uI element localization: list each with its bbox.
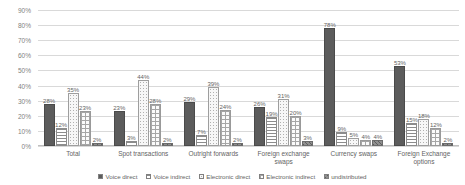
bar[interactable]: 2% [162,143,173,146]
legend-label: Electronic direct [206,173,250,180]
y-axis-tick-label: 50% [18,67,31,74]
bar[interactable]: 28% [150,104,161,146]
bar-slot: 3% [126,10,137,146]
bar-slot: 78% [324,10,335,146]
bar-slot: 15% [406,10,417,146]
bar-slot: 2% [92,10,103,146]
bar[interactable]: 44% [138,80,149,146]
bar-value-label: 18% [418,113,430,120]
bar-value-label: 2% [233,137,242,144]
legend-swatch-icon [324,174,329,179]
legend-label: Voice direct [105,173,137,180]
bar-slot: 19% [266,10,277,146]
bar-slot: 20% [290,10,301,146]
bar-value-label: 2% [93,137,102,144]
category-label: Total [38,150,108,170]
legend-label: Electronic indirect [266,173,315,180]
bar[interactable]: 3% [126,141,137,146]
category-axis-labels: TotalSpot transactionsOutright forwardsF… [38,150,459,170]
bar[interactable]: 2% [232,143,243,146]
bar-value-label: 9% [337,126,346,133]
category-label: Foreign Exchange options [389,150,459,170]
bar[interactable]: 12% [430,128,441,146]
bar-slot: 4% [360,10,371,146]
bar-value-label: 2% [444,137,453,144]
y-axis-tick-label: 60% [18,52,31,59]
bar-slot: 18% [418,10,429,146]
bar-group: 23%3%44%28%2% [108,10,178,146]
legend-item[interactable]: Electronic indirect [259,173,315,180]
bar[interactable]: 18% [418,119,429,146]
legend-label: undistributed [331,173,366,180]
y-axis: 90%80%70%60%50%40%30%20%10%0% [0,10,34,146]
bar-slot: 5% [348,10,359,146]
legend-swatch-icon [199,174,204,179]
bar[interactable]: 26% [254,107,265,146]
bar[interactable]: 5% [348,138,359,146]
bar[interactable]: 78% [324,28,335,146]
bar-group: 26%19%31%20%3% [249,10,319,146]
bar[interactable]: 7% [196,135,207,146]
bar[interactable]: 19% [266,117,277,146]
bar-value-label: 39% [207,81,219,88]
y-axis-tick-label: 20% [18,112,31,119]
bar[interactable]: 3% [302,141,313,146]
bar-slot: 4% [372,10,383,146]
bar-value-label: 2% [163,137,172,144]
bar-value-label: 3% [303,135,312,142]
bar-value-label: 4% [373,134,382,141]
legend-item[interactable]: Voice indirect [146,173,190,180]
bar[interactable]: 4% [360,140,371,146]
bar-group: 29%7%39%24%2% [178,10,248,146]
legend-item[interactable]: Electronic direct [199,173,250,180]
category-label: Spot transactions [108,150,178,170]
bar[interactable]: 23% [80,111,91,146]
bar-group: 78%9%5%4%4% [319,10,389,146]
bar-slot: 12% [430,10,441,146]
bar[interactable]: 28% [44,104,55,146]
bar-slot: 35% [68,10,79,146]
bar-value-label: 4% [361,134,370,141]
bar-value-label: 44% [137,74,149,81]
bar[interactable]: 20% [290,116,301,146]
bar[interactable]: 4% [372,140,383,146]
bar[interactable]: 9% [336,132,347,146]
bar-value-label: 3% [127,135,136,142]
bar-slot: 23% [114,10,125,146]
bar-slot: 44% [138,10,149,146]
bar-slot: 2% [162,10,173,146]
bar[interactable]: 23% [114,111,125,146]
bar-value-label: 28% [149,98,161,105]
bar-value-label: 31% [278,93,290,100]
legend-item[interactable]: undistributed [324,173,366,180]
bar[interactable]: 12% [56,128,67,146]
bar[interactable]: 31% [278,99,289,146]
bar-slot: 39% [208,10,219,146]
bar-value-label: 24% [219,104,231,111]
bar[interactable]: 29% [184,102,195,146]
bar-slot: 24% [220,10,231,146]
y-axis-tick-label: 40% [18,82,31,89]
bar[interactable]: 24% [220,110,231,146]
bar[interactable]: 2% [92,143,103,146]
bar-slot: 9% [336,10,347,146]
plot-area: 28%12%35%23%2%23%3%44%28%2%29%7%39%24%2%… [38,10,459,146]
chart-legend: Voice directVoice indirectElectronic dir… [0,170,465,182]
bar-slot: 53% [394,10,405,146]
bar[interactable]: 39% [208,87,219,146]
bar[interactable]: 2% [442,143,453,146]
legend-swatch-icon [259,174,264,179]
category-label: Outright forwards [178,150,248,170]
y-axis-tick-label: 80% [18,22,31,29]
bar-slot: 28% [150,10,161,146]
bar-value-label: 23% [79,105,91,112]
bar[interactable]: 35% [68,93,79,146]
bar-value-label: 12% [55,122,67,129]
bar-slot: 2% [442,10,453,146]
bar-slot: 28% [44,10,55,146]
bar[interactable]: 15% [406,123,417,146]
bar[interactable]: 53% [394,66,405,146]
y-axis-tick-label: 30% [18,97,31,104]
legend-item[interactable]: Voice direct [98,173,137,180]
y-axis-tick-label: 0% [22,143,31,150]
